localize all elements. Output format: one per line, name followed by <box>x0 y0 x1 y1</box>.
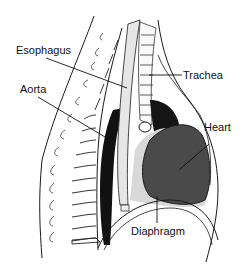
label-esophagus: Esophagus <box>16 45 71 56</box>
label-trachea: Trachea <box>183 70 223 81</box>
chest-anatomy-diagram: Esophagus Aorta Trachea Heart Diaphragm <box>0 0 242 275</box>
spinous-processes <box>50 33 103 242</box>
label-heart: Heart <box>204 122 231 133</box>
aorta-leader <box>38 97 110 140</box>
heart-shape <box>143 125 210 205</box>
label-aorta: Aorta <box>20 84 46 95</box>
anatomy-illustration <box>0 0 242 275</box>
small-vessel <box>121 205 129 211</box>
esophagus-leader <box>46 58 127 88</box>
diaphragm-dome <box>98 200 218 248</box>
label-diaphragm: Diaphragm <box>131 226 185 237</box>
bronchus <box>139 122 151 132</box>
